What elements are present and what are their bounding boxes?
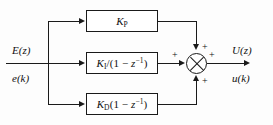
arrow-into-integral-block	[79, 60, 85, 66]
arrow-output	[244, 60, 250, 66]
top-branch-line	[48, 21, 80, 22]
bottom-branch-line	[48, 104, 80, 105]
arrow-into-derivative-block	[79, 101, 85, 107]
pid-block-diagram: KP KI/(1 − z−1) KD(1 − z−1) + + + + E(z)…	[0, 0, 273, 125]
sign-bottom: +	[202, 76, 208, 86]
arrow-into-proportional-block	[79, 18, 85, 24]
proportional-gain-label: KP	[116, 15, 128, 27]
sign-left: +	[172, 50, 178, 60]
summing-junction[interactable]	[186, 53, 207, 74]
proportional-to-summer-vertical	[196, 21, 197, 44]
output-signal-line	[207, 63, 246, 64]
integral-output-line	[158, 63, 179, 64]
derivative-to-summer-vertical	[196, 81, 197, 104]
derivative-gain-block[interactable]: KD(1 − z−1)	[86, 93, 158, 115]
input-signal-line	[6, 63, 80, 64]
integral-gain-block[interactable]: KI/(1 − z−1)	[86, 52, 158, 74]
derivative-output-line	[158, 104, 197, 105]
derivative-gain-label: KD(1 − z−1)	[97, 98, 148, 110]
proportional-gain-block[interactable]: KP	[86, 10, 158, 32]
arrow-into-summer-top	[193, 44, 199, 50]
arrow-into-summer-left	[179, 60, 185, 66]
sign-top: +	[202, 42, 208, 52]
branch-vertical-line	[48, 21, 49, 105]
integral-gain-label: KI/(1 − z−1)	[97, 57, 148, 69]
output-z-label: U(z)	[232, 44, 252, 56]
output-time-label: u(k)	[232, 72, 250, 84]
proportional-output-line	[158, 21, 197, 22]
input-z-label: E(z)	[12, 44, 30, 56]
sign-right: +	[209, 50, 215, 60]
input-time-label: e(k)	[12, 72, 29, 84]
arrow-into-summer-bottom	[193, 75, 199, 81]
